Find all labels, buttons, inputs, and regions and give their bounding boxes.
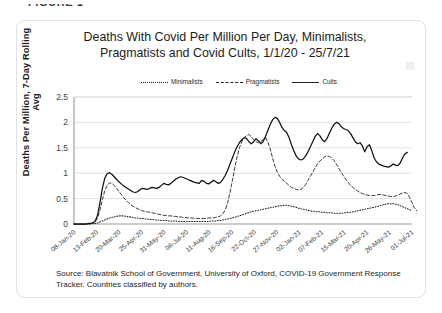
series-line-cults <box>74 117 407 224</box>
source-line-1: Source: Blavatnik School of Government, … <box>56 269 362 278</box>
plot-area: 00.511.522.508-Jan-2013-Feb-2020-Mar-202… <box>0 0 442 313</box>
page-artifact <box>406 62 415 70</box>
y-axis-tick-label: 1.5 <box>56 143 68 153</box>
x-axis-tick-label: 20-Mar-20 <box>94 228 122 253</box>
source-note: Source: Blavatnik School of Government, … <box>56 268 406 291</box>
chart-svg: 00.511.522.508-Jan-2013-Feb-2020-Mar-202… <box>0 0 442 313</box>
x-axis-tick-label: 15-Mar-21 <box>319 228 347 253</box>
x-axis-tick-label: 01-Jul-21 <box>389 228 415 251</box>
y-axis-tick-label: 0.5 <box>56 194 68 204</box>
y-axis-tick-label: 0 <box>63 219 68 229</box>
x-axis-tick-label: 16-Sep-20 <box>206 228 235 254</box>
y-axis-tick-label: 2.5 <box>56 92 68 102</box>
series-line-minimalists <box>74 204 412 224</box>
y-axis-tick-label: 1 <box>63 168 68 178</box>
y-axis-tick-label: 2 <box>63 117 68 127</box>
